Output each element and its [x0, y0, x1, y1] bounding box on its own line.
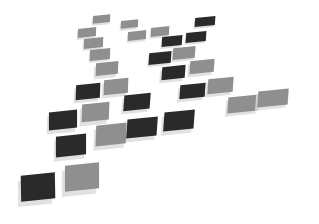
tile-gray: [257, 88, 289, 107]
tile-face: [76, 83, 101, 100]
tile-dark: [179, 83, 205, 100]
tile-scene: [0, 0, 319, 224]
tile-dark: [186, 31, 207, 43]
tile-face: [21, 172, 56, 201]
tile-dark: [162, 35, 183, 47]
tile-face: [96, 61, 119, 76]
tile-gray: [93, 14, 110, 24]
tile-face: [123, 93, 150, 112]
tile-dark: [148, 51, 171, 65]
tile-dark: [76, 83, 101, 100]
tile-face: [161, 65, 185, 80]
tile-face: [179, 83, 205, 100]
tile-face: [65, 162, 99, 191]
tile-face: [82, 102, 110, 123]
tile-gray: [78, 27, 96, 38]
tile-dark: [126, 116, 158, 138]
tile-gray: [96, 61, 119, 76]
tile-face: [148, 51, 171, 65]
tile-gray: [65, 162, 99, 191]
tile-face: [189, 59, 214, 74]
tile-gray: [227, 94, 259, 113]
tile-face: [95, 122, 126, 146]
tile-gray: [104, 78, 129, 95]
tile-gray: [121, 19, 138, 29]
tile-face: [151, 26, 169, 37]
tile-gray: [82, 102, 110, 123]
tile-face: [207, 77, 233, 95]
tile-dark: [56, 133, 86, 157]
tile-face: [128, 30, 146, 41]
tile-face: [227, 94, 259, 113]
tile-dark: [49, 110, 77, 131]
tile-dark: [195, 16, 216, 27]
tile-gray: [128, 30, 146, 41]
tile-dark: [123, 93, 150, 112]
tile-face: [172, 46, 195, 60]
tile-face: [126, 116, 158, 138]
tile-face: [56, 133, 86, 157]
tile-gray: [151, 26, 169, 37]
tile-gray: [172, 46, 195, 60]
tile-face: [49, 110, 77, 131]
tile-dark: [163, 109, 195, 131]
tile-gray: [95, 122, 126, 146]
tile-dark: [161, 65, 185, 80]
tile-dark: [21, 172, 56, 201]
tile-gray: [207, 77, 233, 95]
tile-gray: [90, 48, 111, 61]
tile-face: [78, 27, 96, 38]
tile-gray: [84, 37, 104, 49]
tile-face: [104, 78, 129, 95]
tile-face: [163, 109, 195, 131]
tile-face: [90, 48, 111, 61]
tile-face: [257, 88, 289, 107]
tile-gray: [189, 59, 214, 74]
tile-face: [84, 37, 104, 49]
